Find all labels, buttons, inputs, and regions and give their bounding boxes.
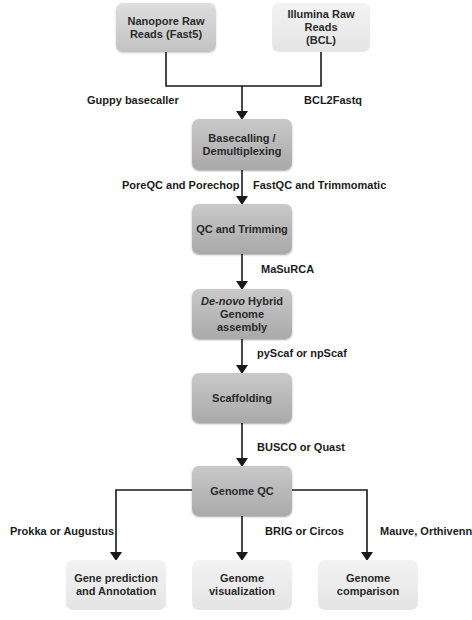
edge-label-pyscaf: pyScaf or npScaf (257, 347, 347, 359)
node-text: Reads (Fast5) (127, 28, 204, 41)
edge-label-bcl2fastq: BCL2Fastq (304, 94, 362, 106)
node-genome-visualization: Genomevisualization (192, 560, 292, 610)
node-qc-trimming: QC and Trimming (192, 204, 292, 254)
node-gene-prediction: Gene predictionand Annotation (66, 560, 166, 610)
node-illumina-raw-reads: Illumina Raw Reads(BCL) (272, 3, 370, 52)
node-text: and Annotation (74, 585, 158, 598)
node-nanopore-raw-reads: Nanopore RawReads (Fast5) (116, 3, 216, 52)
edge-label-brig: BRIG or Circos (265, 525, 344, 537)
edge-label-mauve: Mauve, Orthivenn (380, 525, 472, 537)
node-text-italic: De-novo (201, 295, 245, 307)
node-text: Gene prediction (74, 572, 158, 585)
node-text: Nanopore Raw (127, 15, 204, 28)
node-text: Genome (337, 572, 399, 585)
edge-label-poreqc: PoreQC and Porechop (122, 179, 239, 191)
edge-label-busco: BUSCO or Quast (257, 441, 345, 453)
node-genome-comparison: Genomecomparison (318, 560, 418, 610)
node-text: Genome (209, 572, 275, 585)
node-text: Genome assembly (196, 308, 288, 334)
node-text: comparison (337, 585, 399, 598)
edge-label-guppy: Guppy basecaller (87, 94, 179, 106)
node-basecalling: Basecalling /Demultiplexing (192, 119, 292, 170)
node-denovo-assembly: De-novo HybridGenome assembly (192, 289, 292, 339)
node-text: Hybrid (245, 295, 283, 307)
node-genome-qc: Genome QC (192, 466, 292, 516)
edge-label-fastqc: FastQC and Trimmomatic (253, 179, 386, 191)
node-text: Illumina Raw Reads (276, 8, 366, 34)
edge-label-prokka: Prokka or Augustus (10, 525, 114, 537)
node-scaffolding: Scaffolding (192, 373, 292, 423)
node-text: (BCL) (276, 34, 366, 47)
edge-label-masurca: MaSuRCA (261, 263, 314, 275)
node-text: Demultiplexing (203, 145, 282, 158)
node-text: De-novo Hybrid (196, 295, 288, 308)
node-text: Basecalling / (203, 132, 282, 145)
node-text: visualization (209, 585, 275, 598)
